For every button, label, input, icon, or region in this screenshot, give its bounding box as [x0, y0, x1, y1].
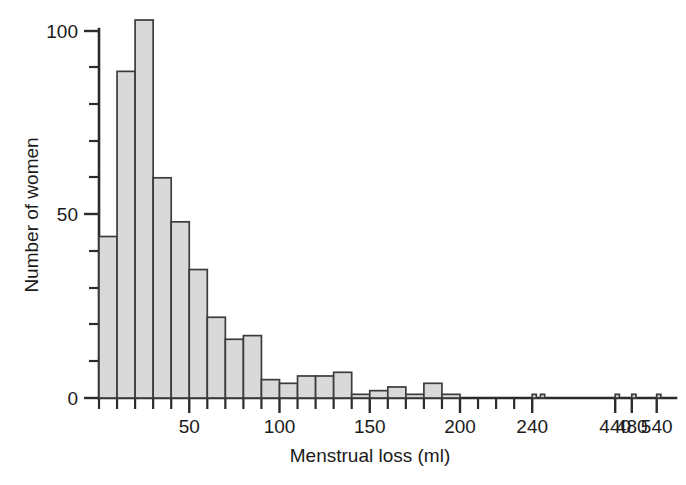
histogram-bar: [632, 394, 636, 398]
histogram-bar: [370, 391, 388, 398]
x-axis-ticks: [99, 398, 657, 413]
histogram-bar: [541, 394, 545, 398]
y-tick-label-0: 0: [67, 388, 78, 409]
y-tick-label-100: 100: [46, 21, 78, 42]
histogram-bar: [532, 394, 536, 398]
histogram-bar: [316, 376, 334, 398]
x-axis-title: Menstrual loss (ml): [290, 445, 450, 466]
histogram-bar: [135, 20, 153, 398]
y-tick-label-50: 50: [57, 204, 78, 225]
x-tick-label-240: 240: [516, 416, 548, 437]
histogram-bar: [243, 336, 261, 398]
y-axis-major-ticks: [84, 31, 99, 398]
histogram-bar: [657, 394, 661, 398]
histogram-bar: [442, 394, 460, 398]
x-tick-label-50: 50: [179, 416, 200, 437]
histogram-bar: [207, 317, 225, 398]
histogram-figure: 0 50 100 50100150200240440480540 Menstru…: [0, 0, 686, 485]
histogram-bars: [99, 20, 661, 398]
histogram-bar: [117, 71, 135, 398]
menstrual-loss-histogram: 0 50 100 50100150200240440480540 Menstru…: [0, 0, 686, 485]
x-tick-label-540: 540: [641, 416, 673, 437]
y-axis-title: Number of women: [21, 137, 42, 292]
histogram-bar: [280, 383, 298, 398]
histogram-bar: [406, 394, 424, 398]
histogram-bar: [388, 387, 406, 398]
histogram-bar: [424, 383, 442, 398]
histogram-bar: [352, 394, 370, 398]
x-tick-label-200: 200: [444, 416, 476, 437]
x-tick-label-100: 100: [264, 416, 296, 437]
x-axis-tick-labels: 50100150200240440480540: [179, 416, 673, 437]
histogram-bar: [153, 178, 171, 398]
histogram-bar: [334, 372, 352, 398]
histogram-bar: [615, 394, 619, 398]
histogram-bar: [261, 380, 279, 398]
histogram-bar: [171, 222, 189, 398]
x-tick-label-150: 150: [354, 416, 386, 437]
histogram-bar: [189, 270, 207, 398]
histogram-bar: [99, 237, 117, 398]
histogram-bar: [225, 339, 243, 398]
histogram-bar: [298, 376, 316, 398]
